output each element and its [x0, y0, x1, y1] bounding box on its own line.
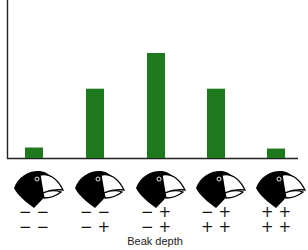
genotype-bottom-4: + + — [201, 218, 231, 236]
genotype-bottom-5: + + — [261, 218, 291, 236]
genotype-bottom-1: − − — [19, 218, 49, 236]
bar-1 — [25, 148, 43, 159]
bar-5 — [267, 149, 285, 158]
beak-depth-chart: − −− −− −− +− +− +− ++ ++ ++ + Beak dept… — [0, 0, 308, 250]
x-axis-label: Beak depth — [127, 235, 183, 247]
genotype-bottom-3: − + — [141, 218, 171, 236]
genotype-symbols-group: − −− −− −− +− +− +− ++ ++ ++ + — [19, 203, 291, 236]
bar-2 — [86, 89, 104, 158]
bars-group — [25, 53, 285, 158]
bar-3 — [147, 53, 165, 158]
genotype-bottom-2: − + — [80, 218, 110, 236]
bar-4 — [207, 89, 225, 158]
